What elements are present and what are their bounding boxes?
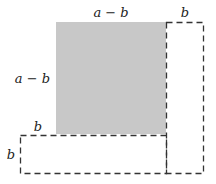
- diagram-canvas: a − b a − b b b b: [0, 0, 216, 184]
- bottom-dashed-rectangle: [21, 136, 167, 174]
- square-top-label: a − b: [93, 5, 128, 20]
- bottom-rect-top-label: b: [34, 119, 42, 134]
- right-rect-top-label: b: [181, 5, 189, 20]
- bottom-rect-left-label: b: [7, 147, 15, 162]
- square-left-label: a − b: [15, 71, 50, 86]
- shaded-square: [56, 22, 166, 134]
- right-dashed-rectangle: [167, 23, 204, 174]
